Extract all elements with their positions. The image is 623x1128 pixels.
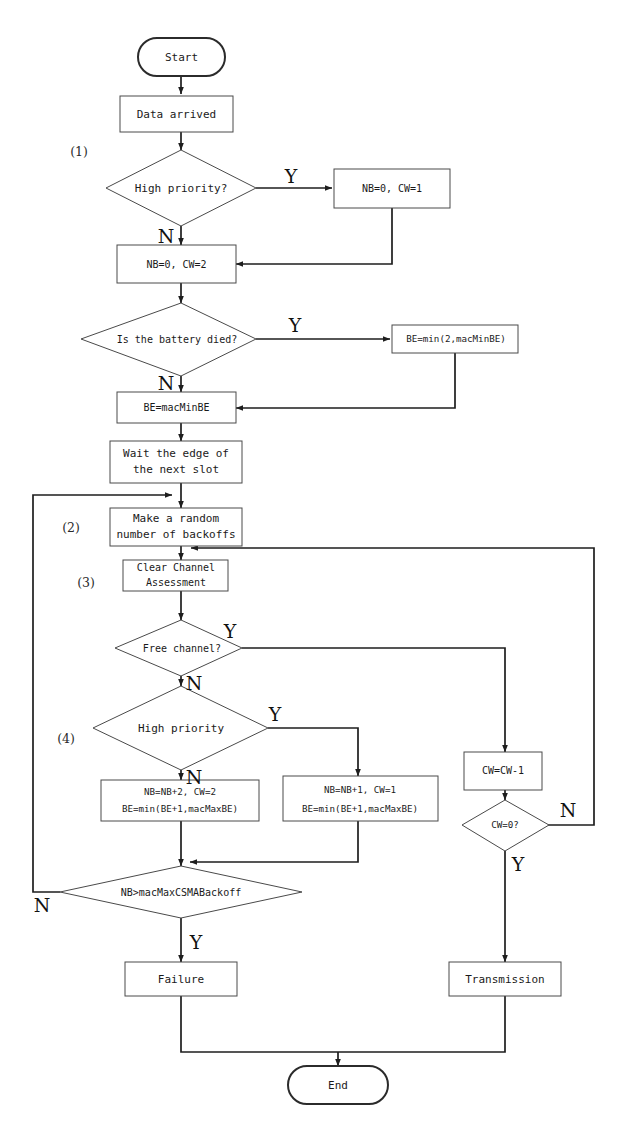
branch-label-hp2-no: N — [186, 766, 203, 788]
flowchart-diagram: Start Data arrived High priority? NB=0, … — [0, 0, 623, 1128]
edge-bemin2-to-bemacminbe — [236, 353, 455, 408]
branch-label-hp1-no: N — [158, 225, 175, 247]
node-be-macminbe: BE=macMinBE — [117, 392, 236, 423]
node-data-arrived: Data arrived — [120, 96, 233, 132]
branch-label-battery-yes: Y — [288, 314, 302, 336]
node-cw-zero-label: CW=0? — [491, 819, 519, 830]
node-end-label: End — [328, 1079, 348, 1092]
node-be-min2: BE=min(2,macMinBE) — [392, 325, 518, 353]
node-random-backoff-line1: Make a random — [133, 512, 219, 525]
node-be-min2-label: BE=min(2,macMinBE) — [406, 333, 506, 344]
branch-label-free-no: N — [186, 672, 203, 694]
node-nb0-cw2: NB=0, CW=2 — [117, 245, 236, 283]
edge-nbmax-no-loopback — [33, 495, 172, 892]
node-nb-plus1-line1: NB=NB+1, CW=1 — [324, 784, 396, 795]
node-failure: Failure — [125, 962, 237, 996]
step-label-2: (2) — [62, 520, 80, 535]
branch-label-hp2-yes: Y — [268, 703, 282, 725]
node-cca-line1: Clear Channel — [137, 562, 215, 573]
node-cw-dec-label: CW=CW-1 — [482, 765, 524, 776]
node-wait-slot-line1: Wait the edge of — [123, 447, 229, 460]
branch-label-free-yes: Y — [223, 620, 237, 642]
branch-label-nbmax-no: N — [34, 894, 51, 916]
node-high-priority-2-label: High priority — [138, 722, 224, 735]
node-nb-plus2-line2: BE=min(BE+1,macMaxBE) — [122, 803, 238, 814]
node-transmission: Transmission — [449, 962, 561, 996]
node-nb-plus2-line1: NB=NB+2, CW=2 — [144, 786, 216, 797]
step-label-4: (4) — [57, 731, 75, 746]
node-nb-gt-max-label: NB>macMaxCSMABackoff — [121, 887, 241, 898]
node-nb-plus2: NB=NB+2, CW=2 BE=min(BE+1,macMaxBE) — [101, 780, 259, 821]
node-battery-died-label: Is the battery died? — [117, 334, 237, 345]
node-be-macminbe-label: BE=macMinBE — [143, 402, 209, 413]
step-label-3: (3) — [77, 575, 95, 590]
branch-label-hp1-yes: Y — [284, 165, 298, 187]
node-high-priority-1: High priority? — [106, 150, 256, 226]
node-start-label: Start — [165, 51, 198, 64]
node-start: Start — [138, 38, 225, 76]
node-nb0-cw1: NB=0, CW=1 — [334, 169, 450, 208]
node-high-priority-1-label: High priority? — [135, 182, 228, 195]
node-random-backoff: Make a random number of backoffs — [110, 508, 242, 546]
branch-label-battery-no: N — [158, 372, 175, 394]
node-high-priority-2: High priority — [93, 686, 268, 770]
node-end: End — [288, 1066, 388, 1104]
edge-nbplus1-to-nbmax — [190, 821, 358, 862]
node-failure-label: Failure — [158, 973, 204, 986]
edge-free-channel-yes — [242, 648, 505, 752]
node-wait-slot-line2: the next slot — [133, 463, 219, 476]
node-nb0-cw2-label: NB=0, CW=2 — [146, 259, 206, 270]
step-label-1: (1) — [70, 144, 88, 159]
node-battery-died: Is the battery died? — [81, 303, 256, 376]
node-nb-gt-max: NB>macMaxCSMABackoff — [60, 866, 302, 918]
edge-high-priority2-yes — [268, 728, 358, 776]
edge-nb0cw1-to-nb0cw2 — [236, 208, 392, 264]
edge-failure-to-end-h — [181, 996, 338, 1052]
node-free-channel-label: Free channel? — [143, 643, 221, 654]
node-wait-slot: Wait the edge of the next slot — [110, 441, 242, 483]
branch-label-nbmax-yes: Y — [189, 931, 203, 953]
node-nb0-cw1-label: NB=0, CW=1 — [362, 183, 422, 194]
flowchart-canvas: Start Data arrived High priority? NB=0, … — [0, 0, 623, 1128]
node-data-arrived-label: Data arrived — [137, 108, 216, 121]
node-cw-dec: CW=CW-1 — [464, 752, 542, 790]
node-random-backoff-line2: number of backoffs — [116, 528, 235, 541]
node-transmission-label: Transmission — [465, 973, 544, 986]
node-cca: Clear Channel Assessment — [123, 560, 228, 591]
node-nb-plus1: NB=NB+1, CW=1 BE=min(BE+1,macMaxBE) — [283, 776, 438, 821]
edge-transmission-to-end-h — [338, 996, 505, 1052]
branch-label-cwzero-no: N — [560, 799, 577, 821]
branch-label-cwzero-yes: Y — [511, 853, 525, 875]
node-cw-zero: CW=0? — [462, 800, 549, 851]
node-cca-line2: Assessment — [146, 577, 206, 588]
node-nb-plus1-line2: BE=min(BE+1,macMaxBE) — [302, 803, 418, 814]
